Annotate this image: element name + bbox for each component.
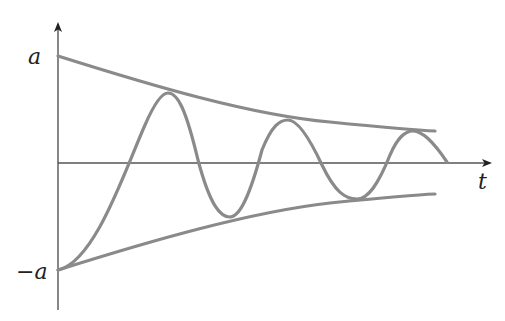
damped-oscillation-diagram: a −a t (0, 0, 505, 321)
y-max-label: a (28, 44, 41, 69)
damped-oscillation-curve (58, 93, 447, 270)
lower-envelope-curve (58, 194, 435, 270)
upper-envelope-curve (58, 56, 435, 131)
y-min-label: −a (16, 259, 48, 284)
t-axis-label: t (478, 169, 487, 194)
